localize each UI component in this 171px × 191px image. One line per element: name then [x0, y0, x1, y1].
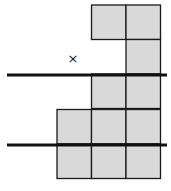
grid-cell	[126, 40, 161, 75]
grid-diagram: ×	[0, 0, 171, 191]
grid-cell	[92, 144, 127, 179]
grid-cell	[92, 110, 127, 145]
grid-cell	[126, 5, 161, 40]
grid-cell	[92, 74, 127, 109]
grid-cell	[57, 144, 92, 179]
grid-cell	[92, 5, 127, 40]
grid-cell	[57, 110, 92, 145]
x-marker: ×	[68, 51, 79, 66]
grid-cell	[126, 110, 161, 145]
grid-cell	[126, 144, 161, 179]
grid-cell	[126, 74, 161, 109]
